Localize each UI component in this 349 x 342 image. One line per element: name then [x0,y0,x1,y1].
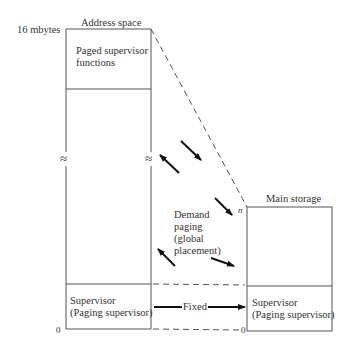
as-zero-label: 0 [56,324,61,336]
break-symbol-left: ≈ [60,153,67,165]
ms-supervisor-label-2: (Paging supervisor) [252,309,335,321]
demand-paging-label-3: (global [174,233,204,245]
demand-paging-label-4: placement) [174,245,221,257]
demand-paging-label-1: Demand [174,209,210,221]
paged-supervisor-label-1: Paged supervisor [76,45,148,57]
address-space-title: Address space [81,17,141,29]
main-storage-title: Main storage [266,193,321,205]
as-supervisor-label-1: Supervisor [70,295,116,307]
top-address-label: 16 mbytes [17,24,60,36]
demand-paging-label-2: paging [174,221,203,233]
main-storage-top-label: n [238,204,243,216]
mapping-dashed-lines [151,29,247,330]
ms-zero-label: 0 [241,324,246,336]
paged-supervisor-label-2: functions [76,57,115,69]
address-space-box [66,29,151,329]
as-supervisor-label-2: (Paging supervisor) [70,307,153,319]
break-symbol-right: ≈ [145,153,152,165]
ms-supervisor-label-1: Supervisor [252,297,298,309]
diagram-canvas [0,0,349,342]
fixed-label: Fixed [183,301,207,313]
